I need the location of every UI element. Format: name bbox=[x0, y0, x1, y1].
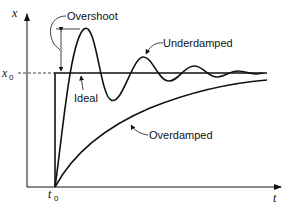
underdamped-curve bbox=[55, 28, 263, 187]
ideal-label: Ideal bbox=[74, 92, 98, 104]
step-response-diagram: x t x 0 t 0 Overshoot Ideal Underdamped … bbox=[0, 0, 292, 209]
overshoot-leader bbox=[50, 16, 66, 50]
y-axis-label: x bbox=[11, 6, 18, 20]
x0-subscript: 0 bbox=[9, 73, 14, 82]
overdamped-label: Overdamped bbox=[149, 129, 213, 141]
overdamped-leader bbox=[131, 125, 148, 135]
overshoot-label: Overshoot bbox=[67, 10, 118, 22]
t0-label: t bbox=[48, 187, 52, 201]
underdamped-label: Underdamped bbox=[163, 37, 233, 49]
x0-label: x bbox=[1, 66, 8, 80]
underdamped-leader bbox=[146, 43, 163, 54]
t0-subscript: 0 bbox=[54, 194, 59, 203]
ideal-leader bbox=[81, 76, 83, 90]
x-axis-label: t bbox=[273, 191, 277, 205]
